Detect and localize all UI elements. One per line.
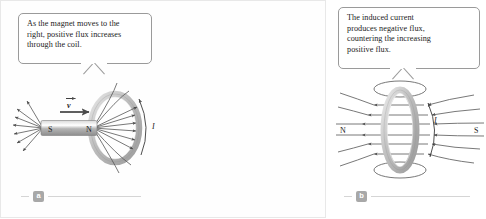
callout-b-line2: produces negative flux, xyxy=(347,24,472,35)
callout-b-tail xyxy=(390,68,416,81)
callout-a-tail xyxy=(81,63,107,76)
callout-a-line1: As the magnet moves to the xyxy=(27,19,144,30)
current-label-b: I xyxy=(433,116,437,125)
callout-a-line3: through the coil. xyxy=(27,40,144,51)
panel-badge-a: a xyxy=(33,191,44,202)
magnet-south-label: S xyxy=(48,125,52,134)
callout-a: As the magnet moves to the right, positi… xyxy=(18,13,152,64)
rail-line-left-a xyxy=(21,196,29,197)
callout-b-line4: positive flux. xyxy=(347,45,472,56)
callout-b: The induced current produces negative fl… xyxy=(338,7,480,69)
panel-b: The induced current produces negative fl… xyxy=(164,1,327,219)
rail-line-b xyxy=(371,196,470,197)
velocity-vector-a: v xyxy=(60,99,89,113)
current-label-a: I xyxy=(151,122,155,131)
magnet-north-label: N xyxy=(86,125,92,134)
diagram-b: N S I xyxy=(336,81,486,177)
diagram-a: S N v I xyxy=(5,79,163,177)
callout-b-line1: The induced current xyxy=(347,13,472,24)
callout-a-line2: right, positive flux increases xyxy=(27,30,144,41)
coil-b xyxy=(384,90,416,170)
caption-rail-b: b xyxy=(344,189,470,203)
current-arc-b: I xyxy=(428,103,437,157)
callout-b-line3: countering the increasing xyxy=(347,34,472,45)
caption-rail-a: a xyxy=(21,189,141,203)
rail-line-left-b xyxy=(344,196,352,197)
rail-line-a xyxy=(48,196,141,197)
coil-north-label: N xyxy=(340,126,346,135)
bar-magnet-a: S N xyxy=(41,121,97,136)
velocity-label: v xyxy=(67,101,71,110)
panel-badge-b: b xyxy=(356,191,367,202)
coil-south-label: S xyxy=(474,126,478,135)
panel-a: As the magnet moves to the right, positi… xyxy=(1,1,164,219)
